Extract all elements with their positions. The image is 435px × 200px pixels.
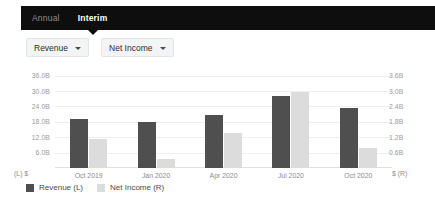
right-axis-tick-label: 1.8B [389,118,429,125]
metric-selectors: Revenue Net Income [26,38,174,57]
revenue-metric-dropdown[interactable]: Revenue [26,38,89,57]
bar-chart: 36.0B30.0B24.0B18.0B12.0B6.0B 3.6B3.0B2.… [0,60,435,175]
period-tabbar: Annual Interim [21,6,435,30]
bar-revenue[interactable] [340,108,358,168]
bar-revenue[interactable] [205,115,223,168]
left-axis-tick-label: 36.0B [10,72,50,79]
left-axis-tick-label: 12.0B [10,134,50,141]
x-axis-tick-label: Jul 2020 [257,172,324,179]
bar-group[interactable] [122,68,189,168]
left-axis-tick-label: 24.0B [10,103,50,110]
net-income-metric-label: Net Income [109,43,152,53]
active-tab-caret-icon [88,30,98,35]
right-axis-tick-label: 0.6B [389,149,429,156]
chevron-down-icon [75,47,81,50]
bar-revenue[interactable] [272,96,290,168]
left-axis-tick-label: 6.0B [10,149,50,156]
right-axis-tick-label: 2.4B [389,103,429,110]
x-axis-tick-label: Oct 2019 [55,172,122,179]
bar-group[interactable] [257,68,324,168]
left-axis-unit-label: (L) $ [14,170,28,177]
bar-group[interactable] [325,68,392,168]
legend-swatch-net-income-icon [97,184,105,192]
bar-net-income[interactable] [157,159,175,168]
legend-label-net-income: Net Income (R) [110,183,164,192]
left-axis-tick-label: 18.0B [10,118,50,125]
revenue-metric-label: Revenue [34,43,68,53]
tab-interim[interactable]: Interim [69,6,117,30]
x-axis-labels: Oct 2019Jan 2020Apr 2020Jul 2020Oct 2020 [55,172,392,179]
left-axis-tick-label: 30.0B [10,88,50,95]
bar-net-income[interactable] [359,148,377,169]
bar-revenue[interactable] [70,119,88,168]
legend-label-revenue: Revenue (L) [39,183,83,192]
financial-chart-widget: Annual Interim Revenue Net Income 36.0B3… [0,0,435,200]
net-income-metric-dropdown[interactable]: Net Income [101,38,173,57]
bar-group[interactable] [55,68,122,168]
x-axis-tick-label: Apr 2020 [190,172,257,179]
right-axis-tick-label: 3.6B [389,72,429,79]
legend-item-revenue[interactable]: Revenue (L) [26,183,83,192]
x-axis-tick-label: Oct 2020 [325,172,392,179]
chart-bar-groups [55,68,392,168]
legend-swatch-revenue-icon [26,184,34,192]
x-axis-tick-label: Jan 2020 [122,172,189,179]
chart-plot-area [55,68,392,168]
bar-group[interactable] [190,68,257,168]
chevron-down-icon [160,47,166,50]
bar-net-income[interactable] [89,139,107,168]
tab-interim-label: Interim [78,13,108,23]
bar-net-income[interactable] [291,92,309,168]
bar-revenue[interactable] [138,122,156,168]
right-axis-tick-label: 1.2B [389,134,429,141]
bar-net-income[interactable] [224,133,242,168]
tab-annual[interactable]: Annual [21,6,69,30]
legend-item-net-income[interactable]: Net Income (R) [97,183,164,192]
tab-annual-label: Annual [32,13,60,23]
right-axis-unit-label: $ (R) [392,170,407,177]
chart-legend: Revenue (L) Net Income (R) [26,183,164,192]
right-axis-tick-label: 3.0B [389,88,429,95]
